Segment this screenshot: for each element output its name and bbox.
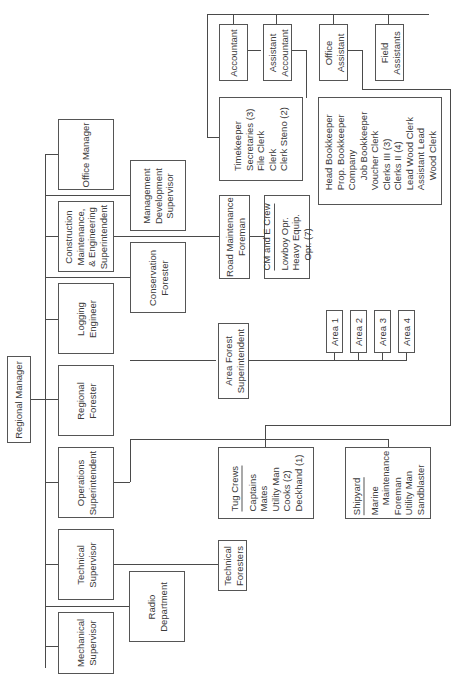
area-3-box[interactable]: Area 3 <box>374 310 391 353</box>
connector <box>362 89 450 90</box>
crew-header: CM and E Crew <box>261 203 275 270</box>
crew-item: Heavy Equip. <box>290 203 302 270</box>
crew-item: Sandblaster <box>414 451 426 515</box>
connector <box>406 352 407 360</box>
connector <box>233 14 234 24</box>
box-label: Superintendent <box>98 204 110 268</box>
connector <box>45 236 58 237</box>
box-label: Area 1 <box>329 318 341 346</box>
assistant-accountant-box[interactable]: Assistant Accountant <box>263 24 292 81</box>
area-4-box[interactable]: Area 4 <box>398 310 415 353</box>
box-label: Management <box>141 168 153 224</box>
box-label: Field <box>378 31 390 74</box>
tug-crews-box[interactable]: Tug Crews Captains Mates Utility Man Coo… <box>218 447 314 519</box>
field-assistants-box[interactable]: Field Assistants <box>375 24 404 81</box>
regional-manager-box[interactable]: Regional Manager <box>7 356 31 443</box>
technical-supervisor-box[interactable]: Technical Supervisor <box>58 529 114 600</box>
office-assistant-box[interactable]: Office Assistant <box>319 24 348 81</box>
staff-item: Clerk <box>267 107 279 171</box>
connector <box>113 236 219 237</box>
area-2-box[interactable]: Area 2 <box>350 310 367 353</box>
trunk-line <box>45 155 46 668</box>
mechanical-supervisor-box[interactable]: Mechanical Supervisor <box>58 612 114 674</box>
construction-superintendent-box[interactable]: Construction Maintenance, & Engineering … <box>58 201 114 272</box>
connector <box>248 50 261 51</box>
technical-foresters-box[interactable]: Technical Foresters <box>218 540 247 591</box>
crew-item: Deckhand (1) <box>292 454 304 511</box>
box-label: Engineer <box>86 299 98 337</box>
box-label: Supervisor <box>86 619 98 667</box>
connector <box>382 352 383 360</box>
box-label: Maintenance, <box>75 204 87 268</box>
crew-item: Utility Man <box>403 451 415 515</box>
cm-e-crew-box[interactable]: CM and E Crew Lowboy Opr. Heavy Equip. O… <box>264 195 310 279</box>
box-label: Foresters <box>233 545 245 585</box>
crew-header: Shipyard <box>351 478 365 516</box>
box-label: Area 4 <box>401 318 413 346</box>
crew-item: Captains <box>246 454 258 511</box>
bookkeeping-staff-box[interactable]: Head Bookkeeper Prop. Bookkeeper Company… <box>318 97 442 205</box>
connector <box>291 50 306 51</box>
clerical-staff-box[interactable]: Timekeeper Secretaries (3) File Clerk Cl… <box>219 97 303 181</box>
connector <box>207 14 208 137</box>
connector <box>348 50 362 51</box>
crew-item: Maintenance <box>380 451 392 515</box>
box-label: Superintendent <box>234 329 246 393</box>
box-label: Regional Manager <box>13 361 25 439</box>
radio-department-box[interactable]: Radio Department <box>129 571 185 642</box>
connector <box>45 399 58 400</box>
shipyard-box[interactable]: Shipyard Marine Maintenance Foreman Util… <box>345 447 431 519</box>
box-label: Assistants <box>390 31 402 74</box>
box-label: Office Manager <box>80 122 92 187</box>
connector <box>45 154 58 155</box>
crew-header: Tug Crews <box>229 466 243 512</box>
connector <box>130 439 131 482</box>
connector <box>247 360 407 361</box>
box-label: Accountant <box>228 29 240 77</box>
box-label: Mechanical <box>75 619 87 667</box>
staff-item: Lead Wood Clerk <box>403 112 415 191</box>
connector <box>362 50 363 89</box>
box-label: Assistant <box>266 29 278 77</box>
crew-item: Cooks (2) <box>281 454 293 511</box>
connector <box>130 439 388 440</box>
root-connector <box>30 399 45 400</box>
box-label: Conservation <box>147 250 159 306</box>
box-label: Superintendent <box>86 450 98 514</box>
management-development-box[interactable]: Management Development Supervisor <box>130 160 186 231</box>
staff-item: Prop. Bookkeeper <box>334 112 346 191</box>
connector <box>45 195 130 196</box>
connector <box>276 14 277 24</box>
box-label: Foreman <box>235 197 247 277</box>
operations-superintendent-box[interactable]: Operations Superintendent <box>58 447 114 518</box>
connector <box>113 564 218 565</box>
connector <box>388 14 389 24</box>
conservation-forester-box[interactable]: Conservation Forester <box>130 242 186 313</box>
box-label: Technical <box>221 545 233 585</box>
road-maintenance-foreman-box[interactable]: Road Maintenance Foreman <box>219 195 250 279</box>
regional-forester-box[interactable]: Regional Forester <box>58 365 114 436</box>
box-label: Forester <box>86 382 98 420</box>
connector <box>45 646 58 647</box>
connector <box>358 352 359 360</box>
box-label: Accountant <box>278 29 290 77</box>
box-label: Department <box>157 582 169 632</box>
logging-engineer-box[interactable]: Logging Engineer <box>58 283 114 354</box>
box-label: Office <box>322 33 334 72</box>
crew-item: Lowboy Opr. <box>279 203 291 270</box>
office-manager-box[interactable]: Office Manager <box>58 119 114 190</box>
connector <box>333 14 334 24</box>
accountant-box[interactable]: Accountant <box>219 24 248 81</box>
crew-item: Mates <box>258 454 270 511</box>
box-label: Development <box>152 168 164 224</box>
box-label: Supervisor <box>164 168 176 224</box>
box-label: Road Maintenance <box>223 197 235 277</box>
area-1-box[interactable]: Area 1 <box>326 310 343 353</box>
crew-item: Utility Man <box>269 454 281 511</box>
staff-item: File Clerk <box>255 107 267 171</box>
connector <box>113 482 130 483</box>
area-forest-superintendent-box[interactable]: Area Forest Superintendent <box>218 323 249 399</box>
connector <box>265 425 266 447</box>
connector <box>334 352 335 360</box>
box-label: Radio <box>146 582 158 632</box>
